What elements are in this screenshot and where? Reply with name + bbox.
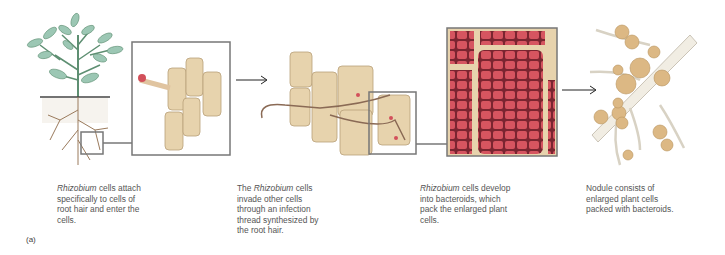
caption-italic: Rhizobium bbox=[57, 183, 97, 193]
nodule-illustration bbox=[590, 25, 697, 165]
arrow-icon bbox=[236, 76, 267, 84]
caption-attach: Rhizobium cells attach specifically to c… bbox=[57, 183, 149, 225]
bacteroid-inset bbox=[447, 28, 557, 156]
figure-label: (a) bbox=[26, 235, 36, 244]
caption-text: The bbox=[237, 183, 254, 193]
caption-italic: Rhizobium bbox=[420, 183, 460, 193]
plant-icon bbox=[26, 12, 132, 165]
caption-italic: Rhizobium bbox=[254, 183, 294, 193]
caption-invade: The Rhizobium cells invade other cells t… bbox=[237, 183, 325, 236]
caption-text: Nodule consists of enlarged plant cells … bbox=[586, 183, 674, 214]
root-hair-inset bbox=[132, 42, 230, 155]
caption-nodule: Nodule consists of enlarged plant cells … bbox=[586, 183, 686, 215]
arrow-icon bbox=[562, 86, 596, 94]
infection-thread-illustration bbox=[261, 52, 447, 155]
caption-develop: Rhizobium cells develop into bacteroids,… bbox=[420, 183, 512, 225]
